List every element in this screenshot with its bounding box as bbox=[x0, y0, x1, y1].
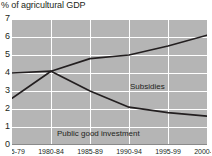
y-axis-tick-2: 2 bbox=[5, 104, 10, 113]
y-axis-tick-0: 0 bbox=[5, 140, 10, 149]
x-axis-tick-5: 2000-04 bbox=[188, 147, 212, 156]
series-label-subsidies: Subsidies bbox=[130, 82, 165, 91]
y-axis-tick-3: 3 bbox=[5, 86, 10, 95]
x-axis-tick-2: 1985-89 bbox=[71, 147, 110, 156]
y-axis: 76543210 bbox=[0, 19, 11, 145]
series-line-0 bbox=[12, 35, 207, 98]
y-axis-tick-4: 4 bbox=[5, 68, 10, 77]
y-axis-tick-1: 1 bbox=[5, 122, 10, 131]
series-label-public-good: Public good investment bbox=[57, 129, 140, 138]
y-axis-tick-5: 5 bbox=[5, 50, 10, 59]
series-lines bbox=[12, 19, 207, 145]
chart-title: % of agricultural GDP bbox=[1, 0, 85, 11]
x-axis-tick-3: 1990-94 bbox=[110, 147, 149, 156]
x-axis-tick-0: 1975-79 bbox=[12, 147, 32, 156]
x-axis: 1975-791980-841985-891990-941995-992000-… bbox=[12, 147, 211, 156]
axis-baseline bbox=[12, 144, 207, 145]
x-axis-tick-4: 1995-99 bbox=[149, 147, 188, 156]
y-axis-tick-6: 6 bbox=[5, 32, 10, 41]
chart-container: % of agricultural GDP 76543210 Subsidies… bbox=[0, 0, 211, 156]
plot-area: Subsidies Public good investment bbox=[12, 19, 207, 145]
x-axis-tick-1: 1980-84 bbox=[32, 147, 71, 156]
y-axis-tick-7: 7 bbox=[5, 14, 10, 23]
